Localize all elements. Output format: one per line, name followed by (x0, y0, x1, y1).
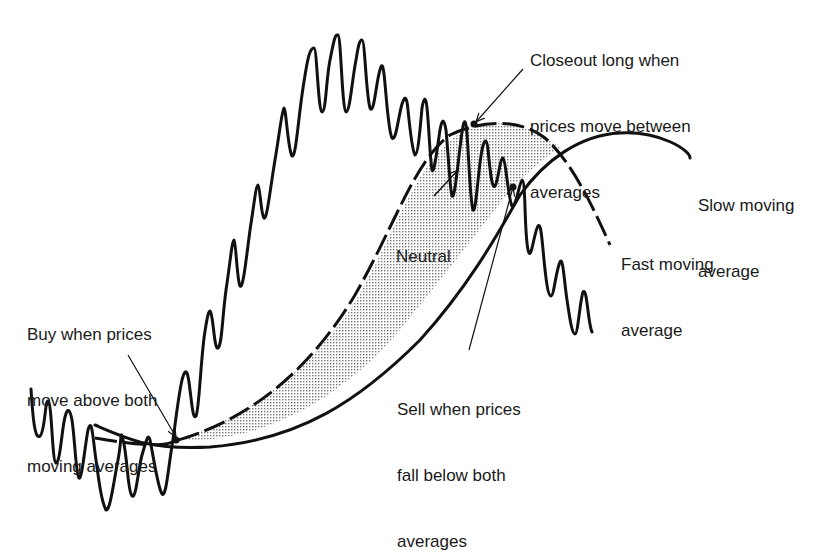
sell-label-line-1: Sell when prices (397, 399, 521, 421)
neutral-label-text: Neutral (396, 246, 451, 268)
buy-label-line-3: moving averages (27, 456, 157, 478)
sell-crossover-point (510, 184, 517, 191)
buy-label: Buy when prices move above both moving a… (27, 280, 157, 500)
closeout-crossover-point (471, 121, 478, 128)
sell-label-line-3: averages (397, 531, 521, 553)
closeout-label: Closeout long when prices move between a… (530, 6, 691, 226)
neutral-label: Neutral (396, 202, 451, 290)
sell-label: Sell when prices fall below both average… (397, 355, 521, 554)
closeout-label-line-2: prices move between (530, 116, 691, 138)
sell-label-line-2: fall below both (397, 465, 521, 487)
fast-ma-label: Fast moving average (621, 210, 714, 364)
closeout-label-line-1: Closeout long when (530, 50, 691, 72)
closeout-label-line-3: averages (530, 182, 691, 204)
fast-ma-label-line-2: average (621, 320, 714, 342)
buy-crossover-point (173, 437, 180, 444)
buy-label-line-1: Buy when prices (27, 324, 157, 346)
fast-ma-label-line-1: Fast moving (621, 254, 714, 276)
closeout-pointer (476, 69, 523, 122)
buy-label-line-2: move above both (27, 390, 157, 412)
